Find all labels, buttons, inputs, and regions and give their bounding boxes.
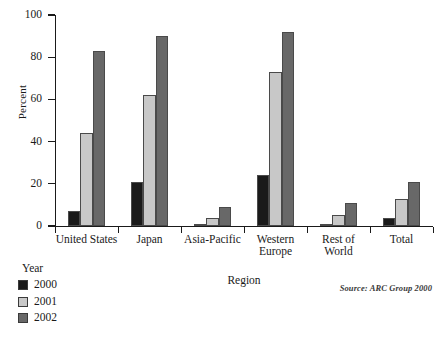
y-axis-tick <box>48 183 55 184</box>
x-axis-category-label: Total <box>356 234 446 246</box>
x-axis-tick <box>370 227 371 233</box>
bar-chart-figure: Percent 020406080100 United StatesJapanA… <box>0 0 446 346</box>
legend-entries: 200020012002 <box>18 278 57 325</box>
legend-label: 2002 <box>34 312 57 324</box>
y-axis-tick-label: 80 <box>0 51 42 63</box>
bar <box>206 218 219 226</box>
bar <box>383 218 396 226</box>
legend-title: Year <box>18 262 57 274</box>
y-axis-tick-label: 40 <box>0 136 42 148</box>
bar <box>257 175 270 226</box>
legend-entry: 2002 <box>18 311 57 325</box>
y-axis-tick <box>48 141 55 142</box>
y-axis-tick-label: 60 <box>0 93 42 105</box>
y-axis-tick <box>48 99 55 100</box>
bar <box>131 182 144 226</box>
bar <box>269 72 282 226</box>
bar <box>320 224 333 226</box>
x-axis-tick <box>118 227 119 233</box>
bar-group <box>55 15 118 226</box>
legend-swatch <box>18 297 28 307</box>
legend: Year 200020012002 <box>18 262 57 328</box>
source-note: Source: ARC Group 2000 <box>340 283 432 293</box>
legend-swatch <box>18 280 28 290</box>
legend-entry: 2000 <box>18 278 57 292</box>
legend-swatch <box>18 313 28 323</box>
bar-group <box>307 15 370 226</box>
bar <box>408 182 421 226</box>
bar <box>219 207 232 226</box>
y-axis-tick-label: 20 <box>0 178 42 190</box>
bar-group <box>370 15 433 226</box>
y-axis-tick-label: 0 <box>0 220 42 232</box>
bar-group <box>118 15 181 226</box>
y-axis-tick-label: 100 <box>0 9 42 21</box>
bar <box>345 203 358 226</box>
legend-label: 2000 <box>34 279 57 291</box>
bar <box>80 133 93 226</box>
x-axis-tick <box>307 227 308 233</box>
y-axis-tick <box>48 14 55 15</box>
legend-label: 2001 <box>34 296 57 308</box>
x-axis-tick <box>433 227 434 233</box>
bar <box>156 36 169 226</box>
bar-group <box>181 15 244 226</box>
bar <box>395 199 408 226</box>
bar <box>332 215 345 226</box>
y-axis-tick <box>48 57 55 58</box>
bar <box>93 51 106 226</box>
bar <box>194 224 207 226</box>
y-axis-tick <box>48 225 55 226</box>
x-axis-tick <box>181 227 182 233</box>
x-axis-tick <box>244 227 245 233</box>
bar <box>282 32 295 226</box>
plot-area <box>55 15 433 226</box>
bar <box>143 95 156 226</box>
bar <box>68 211 81 226</box>
legend-entry: 2001 <box>18 295 57 309</box>
bar-group <box>244 15 307 226</box>
